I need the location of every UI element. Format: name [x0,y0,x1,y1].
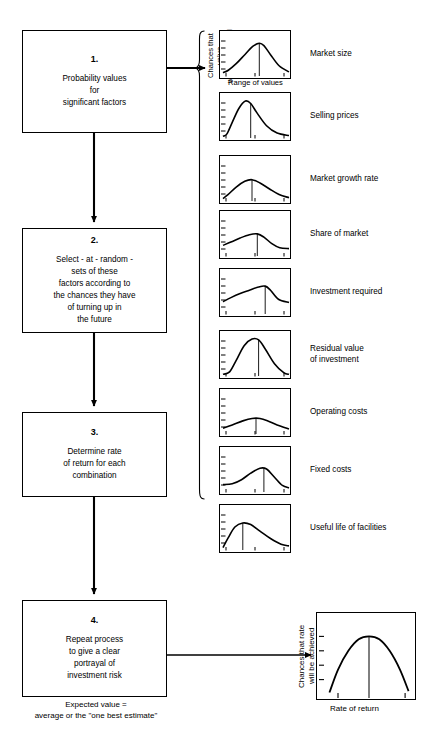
distribution-chart-curve [219,210,291,259]
factor-label-4: Share of market [310,228,368,239]
factor-label-3: Market growth rate [310,173,378,184]
distribution-chart-4[interactable] [219,210,291,259]
distribution-chart-curve [219,155,291,204]
process-box-4[interactable]: 4. Repeat process to give a clear portra… [22,600,167,697]
distribution-chart-curve [219,92,291,141]
factor-label-6: Residual value of investment [310,343,364,365]
distribution-chart-curve [219,388,291,437]
distribution-chart-6[interactable] [219,330,291,379]
distribution-chart-curve [219,268,291,317]
factor-label-7: Operating costs [310,406,367,417]
distribution-chart-1[interactable] [219,30,291,79]
process-box-2-number: 2. [91,235,99,245]
factor-label-5: Investment required [310,286,382,297]
distribution-chart-9[interactable] [219,504,291,553]
distribution-chart-curve [219,330,291,379]
factor-label-1: Market size [310,48,352,59]
diagram-canvas: 1. Probability values for significant fa… [0,0,427,732]
distribution-chart-2[interactable] [219,92,291,141]
factor-label-2: Selling prices [310,110,359,121]
distribution-chart-3[interactable] [219,155,291,204]
process-box-3[interactable]: 3. Determine rate of return for each com… [22,412,167,497]
distribution-group-brace [195,31,205,499]
process-box-1[interactable]: 1. Probability values for significant fa… [22,30,167,133]
distribution-chart-curve [219,504,291,553]
input-chart-x-axis-label: Range of values [228,78,283,87]
expected-value-note: Expected value = average or the "one bes… [12,699,180,721]
distribution-chart-curve [219,446,291,495]
process-box-1-text: Probability values for significant facto… [62,73,126,109]
output-chart-y-axis-label: Chances that rate will be achieved [297,613,318,699]
factor-label-9: Useful life of facilities [310,522,386,533]
distribution-chart-8[interactable] [219,446,291,495]
process-box-3-number: 3. [91,427,99,437]
process-box-2-text: Select - at - random - sets of these fac… [54,254,136,325]
distribution-chart-7[interactable] [219,388,291,437]
process-box-4-number: 4. [91,615,99,625]
factor-label-8: Fixed costs [310,464,351,475]
distribution-chart-curve [219,30,291,79]
output-distribution-chart[interactable] [316,612,416,700]
process-box-4-text: Repeat process to give a clear portrayal… [66,634,123,682]
process-box-1-number: 1. [91,54,99,64]
distribution-chart-5[interactable] [219,268,291,317]
process-box-3-text: Determine rate of return for each combin… [63,446,125,482]
process-box-2[interactable]: 2. Select - at - random - sets of these … [22,228,167,333]
output-chart-curve [316,612,416,700]
output-chart-x-axis-label: Rate of return [330,704,379,713]
